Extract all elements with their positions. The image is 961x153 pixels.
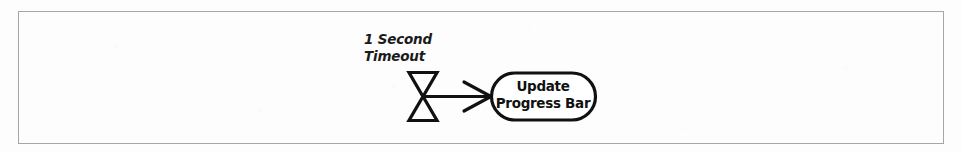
hourglass-upper-triangle [409,73,437,97]
figure-root: 1 Second Timeout Update Progress Bar [0,0,961,153]
action-node-label: Update Progress Bar [491,78,595,112]
action-node-label-line1: Update [516,78,569,94]
timeout-label: 1 Second Timeout [364,31,432,64]
action-node-label-line2: Progress Bar [496,95,591,111]
diagram-canvas [0,0,961,153]
hourglass-lower-triangle [409,97,437,121]
timeout-label-line2: Timeout [364,48,425,64]
transition-arrow [423,82,491,111]
timeout-label-line1: 1 Second [364,31,432,47]
